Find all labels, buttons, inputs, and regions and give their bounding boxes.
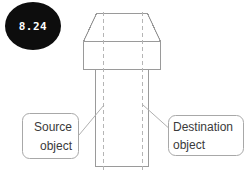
callout-source-line1: Source	[34, 120, 72, 134]
technical-drawing-svg: Source object Destination object 8.24	[0, 0, 249, 174]
callout-source-line2: object	[40, 139, 73, 153]
diagram-canvas: Source object Destination object 8.24	[0, 0, 249, 174]
callout-source[interactable]: Source object	[23, 114, 79, 159]
callout-destination-line2: object	[173, 138, 206, 152]
callout-destination[interactable]: Destination object	[169, 116, 244, 156]
callout-destination-line1: Destination	[173, 120, 233, 134]
bolt-head-block-face	[84, 42, 161, 70]
bolt-part-group	[84, 12, 161, 171]
badge-label: 8.24	[19, 20, 48, 33]
figure-number-badge: 8.24	[5, 2, 61, 50]
